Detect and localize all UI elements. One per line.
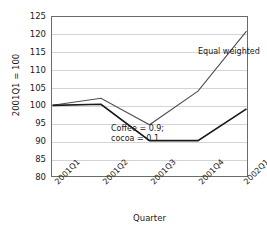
y-tick-120: 120 [24,30,46,38]
y-axis-tick-labels: 125 120 115 110 105 100 95 90 85 80 [24,0,46,232]
series-line-equal-weighted [53,31,247,125]
series-canvas [52,17,247,176]
y-tick-100: 100 [24,101,46,109]
x-axis-title: Quarter [51,213,248,223]
y-tick-95: 95 [24,119,46,127]
annotation-equal-weighted: Equal weighted [198,47,260,57]
y-tick-85: 85 [24,155,46,163]
annotation-coffee-cocoa: Coffee = 0.9; cocoa = 0.1 [111,124,164,144]
chart-figure: 125 120 115 110 105 100 95 90 85 80 2001… [0,0,267,232]
y-tick-115: 115 [24,48,46,56]
x-axis-tick-labels: 2001Q1 2001Q2 2001Q3 2001Q4 2002Q1 [51,177,248,217]
y-tick-80: 80 [24,173,46,181]
annotation-coffee-cocoa-line2: cocoa = 0.1 [111,134,164,144]
y-tick-125: 125 [24,12,46,20]
y-axis-title: 2001Q1 = 100 [11,33,21,137]
y-tick-105: 105 [24,84,46,92]
y-tick-90: 90 [24,137,46,145]
annotation-coffee-cocoa-line1: Coffee = 0.9; [111,124,164,134]
plot-area: Equal weighted Coffee = 0.9; cocoa = 0.1 [51,16,248,177]
y-tick-110: 110 [24,66,46,74]
